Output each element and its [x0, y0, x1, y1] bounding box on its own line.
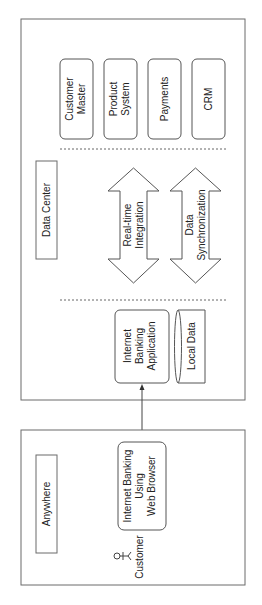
svg-text:Web Browser: Web Browser: [146, 455, 157, 516]
svg-text:Real-time: Real-time: [122, 203, 133, 246]
svg-text:Data: Data: [184, 214, 195, 236]
architecture-diagram: Data Center Customer Master Product Syst…: [0, 0, 262, 605]
svg-text:Internet Banking: Internet Banking: [122, 450, 133, 523]
system-payments: Payments: [148, 59, 181, 139]
web-browser-client: Internet Banking Using Web Browser: [118, 442, 166, 530]
svg-text:Integration: Integration: [134, 201, 145, 248]
local-data-store: Local Data: [175, 310, 206, 383]
system-crm: CRM: [192, 59, 225, 139]
svg-text:Product: Product: [108, 82, 119, 117]
actor-label: Customer: [134, 535, 145, 579]
svg-text:Customer: Customer: [64, 77, 75, 121]
data-center-label: Data Center: [41, 182, 52, 237]
svg-text:Synchronization: Synchronization: [196, 189, 207, 260]
system-product-system: Product System: [104, 59, 137, 139]
internet-banking-application: Internet Banking Application: [115, 310, 169, 383]
svg-text:Master: Master: [76, 83, 87, 114]
svg-text:Banking: Banking: [134, 328, 145, 364]
svg-text:Application: Application: [146, 322, 157, 371]
anywhere-label: Anywhere: [41, 481, 52, 526]
anywhere-zone: Anywhere Internet Banking Using Web Brow…: [21, 430, 245, 585]
svg-text:CRM: CRM: [203, 88, 214, 111]
svg-text:System: System: [120, 82, 131, 115]
svg-text:Local Data: Local Data: [186, 322, 197, 370]
system-customer-master: Customer Master: [60, 59, 93, 139]
svg-text:Payments: Payments: [159, 77, 170, 121]
svg-text:Using: Using: [134, 473, 145, 499]
svg-text:Internet: Internet: [122, 329, 133, 363]
data-center-zone: Data Center Customer Master Product Syst…: [21, 19, 245, 400]
